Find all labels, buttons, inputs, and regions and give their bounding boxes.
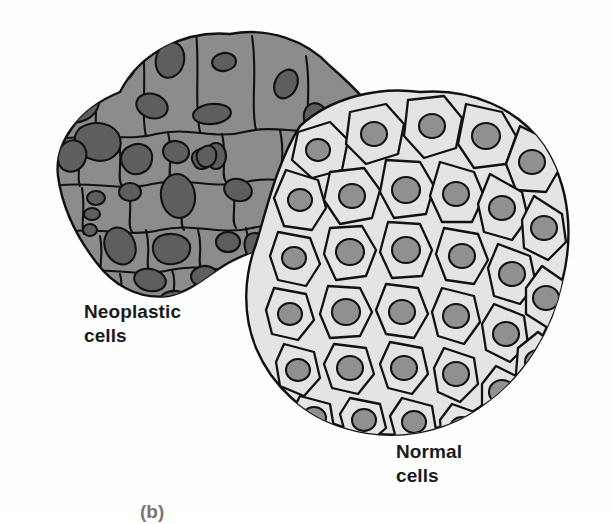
neoplastic-cells-label: Neoplastic cells	[84, 300, 181, 348]
figure-tag: (b)	[140, 500, 164, 524]
normal-cells-label: Normal cells	[396, 440, 462, 488]
